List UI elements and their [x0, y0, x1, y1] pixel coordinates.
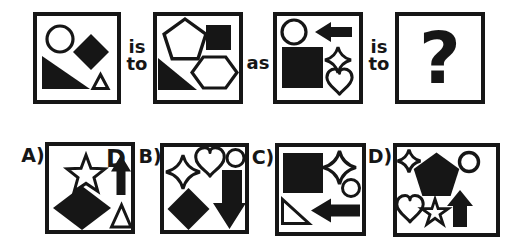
premise-box-1: [33, 12, 121, 104]
option-label-a: A): [20, 144, 46, 166]
letter-d-glyph: D: [106, 146, 126, 172]
outline-five-point-star-shape: [422, 199, 449, 224]
connector-line: to: [363, 55, 395, 72]
filled-square-shape: [206, 25, 231, 50]
analogy-puzzle: is to as is to ? A): [0, 0, 511, 243]
outline-circle-shape: [343, 180, 360, 197]
outline-circle-shape: [227, 150, 244, 167]
filled-diamond-shape: [53, 186, 111, 230]
outline-pentagon-shape: [164, 19, 206, 59]
outline-five-point-star-shape: [67, 155, 105, 191]
option-box-d[interactable]: [393, 143, 500, 237]
option-label-c: C): [250, 146, 276, 168]
filled-left-arrow-shape: [311, 199, 360, 223]
connector-as-label: as: [247, 52, 270, 73]
outline-hexagon-shape: [192, 57, 237, 88]
outline-circle-shape: [460, 153, 479, 172]
outline-triangle-shape: [93, 75, 108, 89]
outline-circle-shape: [47, 26, 73, 52]
outline-triangle-shape: [112, 205, 132, 227]
connector-is-to-1: is to: [121, 38, 153, 72]
option-box-b[interactable]: [160, 143, 249, 234]
premise-box-3: [273, 12, 363, 104]
connector-is-to-2: is to: [363, 38, 395, 72]
filled-left-arrow-shape: [315, 22, 352, 42]
outline-right-triangle-shape: [283, 200, 310, 224]
filled-diamond-shape: [73, 34, 109, 70]
answer-box-unknown: ?: [395, 12, 485, 104]
connector-line: to: [121, 55, 153, 72]
option-label-d: D): [367, 145, 393, 167]
outline-circle-shape: [282, 20, 306, 44]
filled-diamond-shape: [168, 188, 210, 230]
option-box-a[interactable]: D: [45, 142, 135, 234]
premise-box-2: [153, 12, 243, 104]
filled-down-arrow-shape: [213, 170, 245, 229]
question-mark: ?: [399, 16, 481, 100]
filled-pentagon-shape: [414, 153, 460, 196]
outline-heart-shape: [327, 69, 352, 94]
filled-square-shape: [283, 153, 323, 193]
connector-as: as: [243, 52, 273, 73]
outline-heart-shape: [397, 196, 423, 222]
filled-square-shape: [282, 47, 323, 88]
option-box-c[interactable]: [275, 143, 366, 236]
